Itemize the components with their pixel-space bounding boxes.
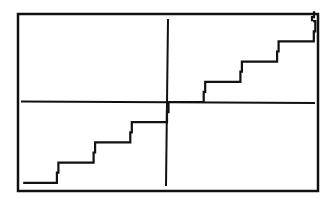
step-function-plot — [23, 11, 315, 183]
step-line-tail — [312, 11, 314, 21]
graph-screen — [0, 0, 335, 203]
